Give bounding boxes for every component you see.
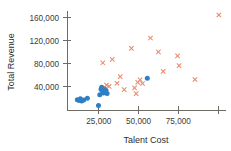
data-point [134, 91, 138, 95]
data-points-group [75, 13, 221, 108]
scatter-chart-figure: 25,00050,00075,000 40,00080,000120,00016… [0, 0, 231, 151]
data-point [118, 74, 122, 78]
x-tick-label: 25,000 [86, 117, 111, 126]
y-tick-label: 160,000 [29, 14, 59, 23]
data-point [175, 54, 179, 58]
x-axis-tick-labels: 25,00050,00075,000 [86, 117, 191, 126]
data-point [96, 103, 101, 108]
data-point [193, 77, 197, 81]
plot-canvas: 25,00050,00075,000 40,00080,000120,00016… [0, 0, 231, 151]
data-point [110, 57, 114, 61]
x-axis-title: Talent Cost [123, 135, 169, 145]
data-point [145, 76, 150, 81]
y-axis-title: Total Revenue [6, 33, 16, 91]
data-point [217, 13, 221, 17]
data-point [138, 78, 142, 82]
data-point [129, 46, 133, 50]
data-point [177, 63, 181, 67]
data-point [122, 87, 126, 91]
data-point [161, 69, 165, 73]
y-tick-label: 120,000 [29, 37, 59, 46]
x-tick-label: 75,000 [166, 117, 191, 126]
y-tick-label: 80,000 [34, 60, 59, 69]
data-point [101, 61, 105, 65]
data-point [85, 96, 90, 101]
data-point [105, 91, 110, 96]
data-point [132, 86, 136, 90]
data-point [140, 81, 144, 85]
y-axis-tick-labels: 40,00080,000120,000160,000 [29, 14, 59, 92]
x-tick-label: 50,000 [126, 117, 151, 126]
data-point [148, 36, 152, 40]
data-point [115, 81, 119, 85]
y-tick-label: 40,000 [34, 83, 59, 92]
data-point [156, 50, 160, 54]
